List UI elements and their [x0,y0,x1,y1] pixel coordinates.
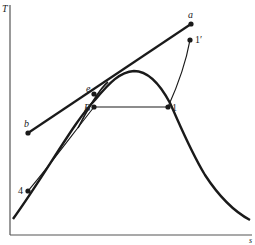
point-B [91,104,96,109]
saturation-dome [13,71,250,220]
label-B: B [84,103,90,113]
label-1prime: 1′ [195,35,202,45]
point-4 [25,188,30,193]
point-e [91,91,96,96]
ts-diagram [0,0,255,245]
point-a [188,21,193,26]
point-1 [165,104,170,109]
label-b: b [24,119,29,129]
curve-4-B [28,107,94,191]
label-e: e [86,84,90,94]
label-a: a [188,10,193,20]
curve-1-1prime [168,40,190,107]
y-axis-label: T [2,4,8,14]
point-1prime [187,37,192,42]
x-axis-label: s [249,237,252,245]
label-4: 4 [18,186,23,196]
point-b [25,130,30,135]
line-b-a [28,24,191,133]
label-1: 1 [172,103,177,113]
